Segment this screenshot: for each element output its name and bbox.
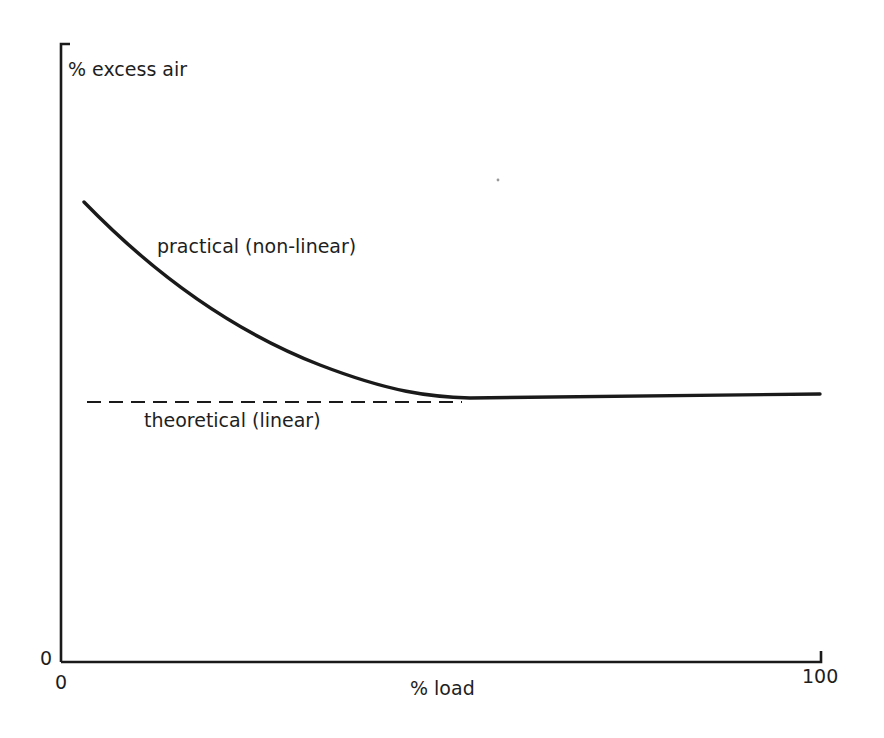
x-max-tick: 100 bbox=[802, 667, 838, 686]
y-axis-label: % excess air bbox=[68, 60, 187, 79]
y-zero-tick: 0 bbox=[40, 649, 52, 668]
theoretical-label: theoretical (linear) bbox=[144, 411, 321, 430]
practical-curve bbox=[84, 202, 820, 398]
practical-label: practical (non-linear) bbox=[157, 237, 356, 256]
x-zero-tick: 0 bbox=[55, 673, 67, 692]
speck bbox=[497, 179, 500, 182]
x-axis-label: % load bbox=[410, 679, 475, 698]
x-axis bbox=[61, 651, 821, 662]
chart-canvas bbox=[0, 0, 884, 738]
y-axis bbox=[61, 44, 70, 662]
